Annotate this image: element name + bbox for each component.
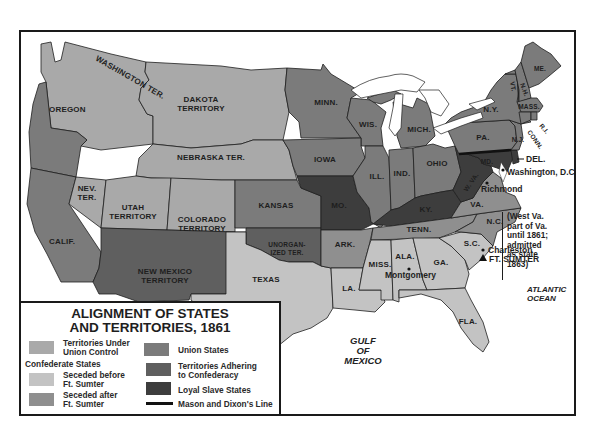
- label-oregon: OREGON: [49, 105, 86, 114]
- label-atlantic-1: ATLANTIC: [526, 285, 567, 294]
- label-nevada-1: NEV.: [78, 184, 97, 193]
- label-newmexico-1: NEW MEXICO: [138, 267, 192, 276]
- label-new-jersey: N.J.: [512, 136, 525, 143]
- label-colorado-2: TERRITORY: [178, 224, 226, 233]
- label-maine: ME.: [534, 65, 546, 72]
- label-maryland: MD.: [481, 158, 494, 165]
- label-gulf-3: MEXICO: [344, 355, 382, 366]
- note-bracket: [502, 212, 503, 280]
- swatch-seceded-after: [29, 393, 54, 406]
- legend-label-seceded-before: Seceded before Ft. Sumter: [63, 371, 125, 388]
- charleston-dot: [481, 248, 484, 251]
- label-utah-1: UTAH: [122, 203, 144, 212]
- label-california: CALIF.: [49, 237, 75, 246]
- label-unorganized-2: IZED TER.: [270, 249, 303, 256]
- legend-label-union-states: Union States: [178, 346, 229, 355]
- label-massachusetts: MASS.: [518, 103, 540, 110]
- legend-label-mason-dixon: Mason and Dixon's Line: [178, 400, 273, 409]
- legend-label-confed-territory: Territories Adhering to Confederacy: [178, 362, 257, 379]
- label-connecticut: CONN.: [526, 129, 544, 151]
- swatch-loyal-slave: [146, 382, 171, 395]
- label-unorganized-1: UNORGAN-: [268, 241, 305, 248]
- label-wisconsin: WIS.: [359, 120, 377, 129]
- region-rhode-island: [531, 112, 537, 120]
- label-colorado-1: COLORADO: [178, 215, 226, 224]
- label-kentucky: KY.: [419, 205, 432, 214]
- label-newmexico-2: TERRITORY: [141, 276, 189, 285]
- label-south-carolina: S.C.: [464, 239, 480, 248]
- label-richmond: Richmond: [481, 184, 523, 194]
- label-montgomery: Montgomery: [385, 270, 436, 280]
- map-legend: ALIGNMENT OF STATES AND TERRITORIES, 186…: [21, 301, 281, 416]
- label-texas: TEXAS: [252, 275, 280, 284]
- label-indiana: IND.: [394, 169, 411, 178]
- label-dakota-1: DAKOTA: [184, 95, 219, 104]
- label-nebraska: NEBRASKA TER.: [177, 153, 245, 162]
- label-florida: FLA.: [459, 317, 478, 326]
- legend-text: Ft. Sumter: [63, 380, 125, 389]
- legend-label-union-territory: Territories Under Union Control: [63, 339, 130, 356]
- label-illinois: ILL.: [369, 172, 384, 181]
- legend-text: to Confederacy: [178, 371, 257, 380]
- legend-title-line-2: AND TERRITORIES, 1861: [21, 321, 279, 335]
- label-rhode-island: R.I.: [538, 122, 550, 135]
- legend-label-seceded-after: Seceded after Ft. Sumter: [63, 391, 117, 408]
- region-delaware: [511, 150, 519, 164]
- swatch-union-states: [144, 343, 169, 356]
- label-mississippi: MISS.: [369, 260, 392, 269]
- label-tennessee: TENN.: [407, 225, 432, 234]
- west-virginia-note: (West Va. part of Va. until 1861; admitt…: [507, 212, 576, 270]
- label-virginia: VA.: [470, 200, 483, 209]
- legend-text: Ft. Sumter: [63, 400, 117, 409]
- label-missouri: MO.: [331, 201, 347, 210]
- label-new-york: N.Y.: [483, 105, 498, 114]
- legend-title-line-1: ALIGNMENT OF STATES: [21, 307, 279, 321]
- legend-confederate-heading: Confederate States: [25, 360, 101, 369]
- swatch-seceded-before: [29, 373, 54, 386]
- label-kansas: KANSAS: [259, 201, 294, 210]
- label-delaware: DEL.: [526, 154, 545, 164]
- label-ohio: OHIO: [426, 159, 447, 168]
- label-minnesota: MINN.: [314, 98, 338, 107]
- label-washington-dc: Washington, D.C.: [507, 167, 574, 177]
- region-new-mexico-territory: [93, 228, 246, 302]
- label-nevada-2: TER.: [77, 193, 96, 202]
- swatch-union-territory: [29, 341, 54, 354]
- map-frame: WASHINGTON TER. OREGON DAKOTA TERRITORY …: [19, 30, 576, 416]
- label-dakota-2: TERRITORY: [177, 104, 225, 113]
- label-iowa: IOWA: [314, 155, 336, 164]
- label-michigan: MICH.: [407, 125, 431, 134]
- label-georgia: GA.: [434, 258, 449, 267]
- label-pennsylvania: PA.: [476, 133, 489, 142]
- note-line: 1863): [507, 260, 576, 270]
- label-north-carolina: N.C.: [487, 217, 504, 226]
- legend-label-loyal-slave: Loyal Slave States: [178, 386, 251, 395]
- label-louisiana: LA.: [342, 284, 356, 293]
- label-alabama: ALA.: [395, 252, 414, 261]
- label-utah-2: TERRITORY: [109, 212, 157, 221]
- swatch-confed-territory: [146, 363, 171, 376]
- washington-dc-dot: [501, 168, 504, 171]
- label-arkansas: ARK.: [335, 240, 355, 249]
- legend-title: ALIGNMENT OF STATES AND TERRITORIES, 186…: [21, 307, 279, 335]
- legend-text: Union Control: [63, 348, 130, 357]
- swatch-mason-dixon: [146, 402, 173, 405]
- label-atlantic-2: OCEAN: [527, 294, 556, 303]
